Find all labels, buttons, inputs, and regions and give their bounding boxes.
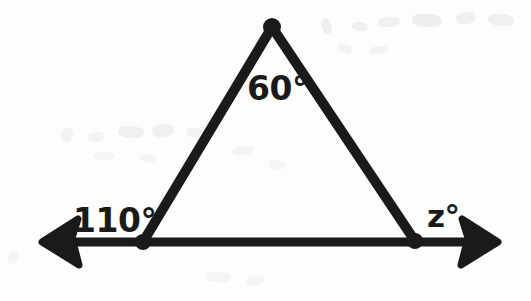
right-exterior-angle-label: z°: [427, 201, 460, 232]
base-right-vertex-dot: [407, 233, 423, 249]
left-exterior-angle-label: 110°: [73, 204, 156, 237]
apex-angle-label: 60°: [247, 72, 308, 105]
triangle-figure: [0, 0, 531, 301]
triangle-left-leg: [143, 27, 272, 242]
geometry-diagram-canvas: 60° 110° z°: [0, 0, 531, 301]
triangle-right-leg: [272, 27, 415, 241]
apex-vertex-dot: [263, 18, 281, 36]
right-arrowhead-icon: [461, 219, 498, 265]
